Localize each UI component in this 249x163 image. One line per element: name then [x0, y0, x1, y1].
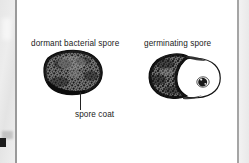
spore-illustrations [17, 0, 237, 163]
label-spore-coat: spore coat [75, 110, 114, 120]
figure-content-area: dormant bacterial spore germinating spor… [17, 0, 237, 163]
scan-edge-right [239, 0, 249, 163]
germinating-spore-drawing [137, 46, 220, 108]
dormant-spore-drawing [37, 44, 111, 102]
nucleoid [197, 77, 209, 87]
label-dormant-bacterial-spore: dormant bacterial spore [31, 39, 119, 49]
label-germinating-spore: germinating spore [144, 39, 211, 49]
scan-corner-mark [0, 138, 6, 147]
spore-coat-leader-line [80, 92, 81, 110]
figure-page: dormant bacterial spore germinating spor… [0, 0, 249, 163]
